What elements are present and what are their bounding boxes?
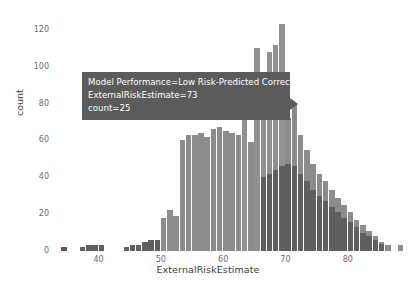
histogram-bar (261, 177, 267, 251)
histogram-bar (348, 222, 354, 252)
histogram-bar (211, 129, 217, 251)
histogram-bar (92, 245, 98, 251)
histogram-bar (354, 227, 360, 251)
histogram-bar (329, 207, 335, 251)
tooltip-line-xvalue: ExternalRiskEstimate=73 (88, 89, 284, 102)
histogram-bar (323, 201, 329, 251)
histogram-bar (317, 196, 323, 251)
histogram-bar (148, 240, 154, 251)
histogram-bar (180, 140, 186, 251)
plot-area (55, 15, 410, 251)
x-tick-label: 60 (208, 255, 238, 264)
x-tick-label: 40 (84, 255, 114, 264)
histogram-bar (161, 218, 167, 251)
histogram-bar (192, 135, 198, 251)
histogram-bar (167, 210, 173, 251)
histogram-bar (236, 135, 242, 251)
histogram-bar (335, 212, 341, 251)
histogram-bar (61, 247, 67, 251)
y-tick-label: 40 (23, 172, 49, 181)
histogram-bar (292, 166, 298, 251)
histogram-bar (173, 216, 179, 251)
histogram-bar (273, 170, 279, 251)
histogram-bar (217, 127, 223, 251)
histogram-bar (373, 240, 379, 251)
y-tick-label: 60 (23, 135, 49, 144)
x-axis-title: ExternalRiskEstimate (0, 264, 416, 275)
histogram-bar (298, 174, 304, 251)
tooltip-pointer (290, 98, 298, 110)
histogram-bar (186, 135, 192, 251)
histogram-bar (229, 133, 235, 251)
x-tick-label: 70 (270, 255, 300, 264)
histogram-bar (155, 240, 161, 251)
histogram-bar (366, 236, 372, 251)
histogram-bar (341, 218, 347, 251)
y-tick-label: 100 (23, 62, 49, 71)
histogram-bar (248, 142, 254, 251)
chart-tooltip: Model Performance=Low Risk-Predicted Cor… (82, 72, 290, 120)
y-tick-label: 80 (23, 99, 49, 108)
histogram-bar (80, 247, 86, 251)
histogram-bar (379, 244, 385, 251)
histogram-bar (124, 247, 130, 251)
y-tick-label: 0 (23, 246, 49, 255)
histogram-bar (267, 174, 273, 251)
histogram-bar (310, 190, 316, 251)
histogram-bar (285, 164, 291, 251)
histogram-bar (279, 166, 285, 251)
tooltip-line-count: count=25 (88, 102, 284, 115)
histogram-bar (99, 245, 105, 251)
histogram-bar (142, 242, 148, 251)
histogram-bar (360, 233, 366, 251)
histogram-bar (385, 245, 391, 251)
histogram-bar (136, 245, 142, 251)
histogram-bar (198, 133, 204, 251)
x-tick-label: 80 (333, 255, 363, 264)
y-tick-label: 120 (23, 25, 49, 34)
x-tick-label: 50 (146, 255, 176, 264)
histogram-bar (304, 181, 310, 251)
histogram-bar (204, 137, 210, 251)
histogram-bar (130, 245, 136, 251)
histogram-bar (86, 245, 92, 251)
histogram-bar (398, 245, 404, 251)
histogram-bar (223, 131, 229, 251)
tooltip-line-series: Model Performance=Low Risk-Predicted Cor… (88, 76, 284, 89)
histogram-chart: count 020406080100120 4050607080 Model P… (0, 0, 416, 286)
y-tick-label: 20 (23, 209, 49, 218)
